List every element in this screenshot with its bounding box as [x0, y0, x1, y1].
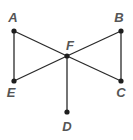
node-label-c: C [116, 85, 126, 100]
node-b [118, 28, 123, 33]
node-label-a: A [7, 10, 17, 25]
node-label-e: E [7, 85, 16, 100]
edge-c-f [67, 56, 121, 81]
node-f [64, 53, 69, 58]
graph-diagram: ABCDEF [0, 0, 133, 140]
node-label-b: B [114, 10, 123, 25]
edge-b-f [67, 31, 121, 56]
node-c [118, 78, 123, 83]
node-a [11, 28, 16, 33]
node-label-d: D [62, 119, 72, 134]
node-label-f: F [66, 38, 75, 53]
node-e [11, 78, 16, 83]
node-d [64, 109, 69, 114]
edge-a-f [14, 31, 67, 56]
edge-e-f [14, 56, 67, 81]
